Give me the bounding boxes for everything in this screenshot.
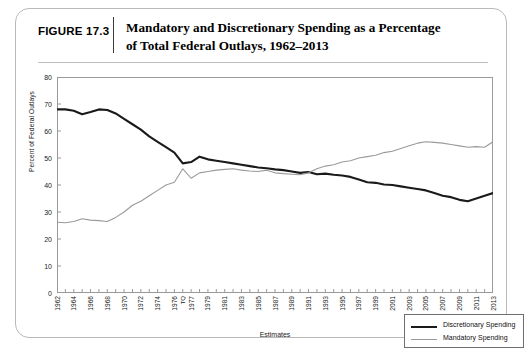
x-tick-label: 1979: [204, 296, 211, 311]
x-tick-label: 2007: [439, 296, 446, 311]
series-line: [57, 109, 493, 206]
y-tick-label: 20: [36, 236, 52, 243]
figure-title: Mandatory and Discretionary Spending as …: [126, 19, 476, 54]
x-tick-label: 1983: [238, 296, 245, 311]
x-tick-label: 1968: [104, 296, 111, 311]
x-axis-tick-labels: 19621964196619681970197219741976TQ197719…: [57, 296, 493, 332]
y-tick-label: 80: [36, 74, 52, 81]
x-tick-label: 1977: [188, 296, 195, 311]
series-line: [57, 128, 493, 223]
x-axis-title: Estimates: [57, 331, 493, 338]
x-tick-label: 1962: [54, 296, 61, 311]
x-tick-label: 1970: [121, 296, 128, 311]
figure-header: FIGURE 17.3 Mandatory and Discretionary …: [16, 9, 506, 61]
legend-swatch: [411, 339, 437, 340]
header-rule: [38, 62, 488, 63]
x-tick-label: 1993: [322, 296, 329, 311]
x-tick-label: 2001: [389, 296, 396, 311]
chart-lines: [57, 77, 493, 293]
figure-card: FIGURE 17.3 Mandatory and Discretionary …: [15, 8, 507, 338]
x-tick-label: 2011: [473, 296, 480, 310]
x-tick-label: 2003: [406, 296, 413, 311]
x-tick-label: 1987: [272, 296, 279, 311]
y-tick-label: 10: [36, 263, 52, 270]
figure-title-line-2: of Total Federal Outlays, 1962–2013: [126, 37, 476, 55]
x-tick-label: 1985: [255, 296, 262, 311]
x-tick-label: 1964: [70, 296, 77, 311]
x-tick-label: 1972: [137, 296, 144, 311]
x-tick-label: 1995: [339, 296, 346, 311]
y-tick-label: 60: [36, 128, 52, 135]
x-tick-label: 1997: [355, 296, 362, 311]
x-tick-label: 2013: [490, 296, 497, 311]
figure-number: FIGURE 17.3: [38, 25, 109, 37]
x-tick-label: 1999: [372, 296, 379, 311]
y-tick-label: 40: [36, 182, 52, 189]
y-tick-label: 30: [36, 209, 52, 216]
x-tick-label: 1991: [305, 296, 312, 311]
header-divider: [113, 17, 114, 53]
y-tick-label: 70: [36, 101, 52, 108]
x-tick-label: 1976: [171, 296, 178, 311]
x-tick-label: 1981: [221, 296, 228, 311]
y-tick-label: 0: [36, 290, 52, 297]
y-tick-label: 50: [36, 155, 52, 162]
x-tick-label: 2005: [422, 296, 429, 311]
x-tick-label: 1974: [154, 296, 161, 311]
x-tick-label: 1989: [288, 296, 295, 311]
x-tick-label: 1966: [87, 296, 94, 311]
plot-area: Discretionary SpendingMandatory Spending: [57, 77, 493, 293]
y-axis-tick-labels: 01020304050607080: [32, 77, 52, 293]
x-tick-label: TQ: [179, 296, 186, 305]
x-tick-label: 2009: [456, 296, 463, 311]
figure-title-line-1: Mandatory and Discretionary Spending as …: [126, 19, 476, 37]
